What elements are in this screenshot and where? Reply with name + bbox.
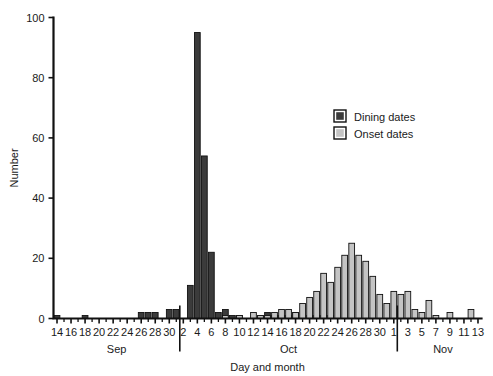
x-tick-label-nov-11: 11 xyxy=(458,326,469,338)
legend-label-dining-dates: Dining dates xyxy=(354,111,416,123)
x-tick-label-nov-1: 1 xyxy=(391,326,397,338)
x-tick-label-oct-12: 12 xyxy=(247,326,259,338)
bar-nov-2 xyxy=(398,294,404,318)
legend-swatch-onset-dates xyxy=(336,129,344,137)
y-tick-label-100: 100 xyxy=(26,12,44,24)
bar-oct-22 xyxy=(321,273,327,318)
bar-oct-6 xyxy=(208,252,214,318)
bar-nov-1 xyxy=(391,291,397,318)
x-tick-label-oct-18: 18 xyxy=(289,326,301,338)
bar-oct-17 xyxy=(286,309,292,318)
bar-oct-1 xyxy=(173,309,179,318)
bar-oct-4 xyxy=(194,33,200,319)
legend-label-onset-dates: Onset dates xyxy=(354,128,414,140)
series-onset-dates xyxy=(223,243,474,318)
axis-lines xyxy=(54,18,482,319)
x-tick-label-oct-14: 14 xyxy=(261,326,273,338)
x-tick-label-oct-6: 6 xyxy=(208,326,214,338)
legend-swatch-dining-dates xyxy=(336,112,344,120)
bar-oct-26 xyxy=(349,243,355,318)
bar-chart: 0204060801001416182022242628302468101214… xyxy=(0,0,493,376)
series-dining-dates xyxy=(54,33,333,319)
legend xyxy=(334,110,346,139)
x-tick-label-nov-9: 9 xyxy=(447,326,453,338)
x-tick-label-sep-24: 24 xyxy=(121,326,133,338)
y-tick-label-80: 80 xyxy=(32,72,44,84)
x-tick-label-nov-5: 5 xyxy=(419,326,425,338)
bar-nov-3 xyxy=(405,291,411,318)
chart-figure: 0204060801001416182022242628302468101214… xyxy=(0,0,493,376)
x-tick-label-nov-3: 3 xyxy=(405,326,411,338)
x-tick-label-oct-26: 26 xyxy=(346,326,358,338)
y-tick-label-40: 40 xyxy=(32,192,44,204)
month-label-oct: Oct xyxy=(280,343,297,355)
x-tick-label-sep-20: 20 xyxy=(93,326,105,338)
bar-oct-19 xyxy=(300,303,306,318)
x-tick-label-oct-24: 24 xyxy=(332,326,344,338)
x-tick-label-nov-13: 13 xyxy=(472,326,484,338)
bar-oct-30 xyxy=(377,294,383,318)
x-tick-label-oct-22: 22 xyxy=(318,326,330,338)
bar-oct-27 xyxy=(356,255,362,318)
x-tick-label-oct-2: 2 xyxy=(180,326,186,338)
bar-nov-4 xyxy=(412,309,418,318)
x-tick-label-sep-18: 18 xyxy=(79,326,91,338)
x-tick-label-oct-16: 16 xyxy=(275,326,287,338)
bar-oct-16 xyxy=(279,309,285,318)
x-tick-label-nov-7: 7 xyxy=(433,326,439,338)
bar-oct-29 xyxy=(370,276,376,318)
x-tick-label-sep-14: 14 xyxy=(51,326,63,338)
bar-oct-31 xyxy=(384,303,390,318)
bar-sep-30 xyxy=(166,309,172,318)
y-tick-label-0: 0 xyxy=(38,313,44,325)
y-tick-label-60: 60 xyxy=(32,132,44,144)
bar-oct-20 xyxy=(307,297,313,318)
x-tick-label-sep-16: 16 xyxy=(65,326,77,338)
x-tick-label-sep-22: 22 xyxy=(107,326,119,338)
bar-oct-24 xyxy=(335,267,341,318)
x-tick-label-oct-28: 28 xyxy=(360,326,372,338)
month-label-sep: Sep xyxy=(107,343,127,355)
bar-oct-3 xyxy=(187,285,193,318)
x-tick-label-oct-8: 8 xyxy=(222,326,228,338)
y-axis-title: Number xyxy=(8,148,20,187)
y-tick-label-20: 20 xyxy=(32,252,44,264)
x-tick-label-oct-20: 20 xyxy=(303,326,315,338)
bar-nov-6 xyxy=(426,300,432,318)
bar-nov-12 xyxy=(468,309,474,318)
x-tick-label-sep-30: 30 xyxy=(163,326,175,338)
x-axis-title: Day and month xyxy=(230,361,305,373)
x-tick-label-sep-26: 26 xyxy=(135,326,147,338)
bar-oct-25 xyxy=(342,255,348,318)
bar-oct-5 xyxy=(201,156,207,319)
bar-oct-28 xyxy=(363,261,369,318)
x-tick-label-oct-30: 30 xyxy=(374,326,386,338)
x-tick-label-oct-4: 4 xyxy=(194,326,200,338)
month-label-nov: Nov xyxy=(433,343,453,355)
x-tick-label-oct-10: 10 xyxy=(233,326,245,338)
x-tick-label-sep-28: 28 xyxy=(149,326,161,338)
bars-group xyxy=(54,33,474,319)
bar-oct-21 xyxy=(314,291,320,318)
bar-oct-23 xyxy=(328,282,334,318)
